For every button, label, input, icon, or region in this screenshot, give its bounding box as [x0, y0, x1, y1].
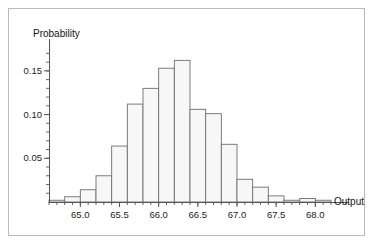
histogram-bar [143, 88, 159, 202]
x-tick-label: 68.0 [302, 210, 328, 220]
histogram-bar [96, 176, 112, 202]
histogram-bar [112, 146, 128, 202]
histogram-bar [221, 144, 237, 202]
x-tick-label: 67.0 [224, 210, 250, 220]
x-tick-label: 65.5 [107, 210, 133, 220]
x-axis-title: Output [334, 197, 364, 207]
histogram-bar [206, 114, 222, 202]
y-tick-label: 0.05 [13, 153, 42, 163]
histogram-bar [315, 200, 331, 202]
histogram-bar [159, 68, 175, 202]
histogram-bar [190, 109, 206, 202]
x-tick-label: 65.0 [67, 210, 93, 220]
histogram-bar [268, 196, 284, 202]
histogram-bar [127, 104, 143, 202]
x-tick-label: 66.5 [185, 210, 211, 220]
histogram-plot [9, 9, 366, 237]
bars-layer [49, 60, 331, 202]
x-tick-label: 67.5 [263, 210, 289, 220]
y-tick-label: 0.10 [13, 110, 42, 120]
figure-frame: 65.065.566.066.567.067.568.00.050.100.15… [8, 8, 365, 236]
histogram-bar [80, 190, 96, 202]
histogram-bar [65, 197, 81, 202]
histogram-bar [237, 179, 253, 202]
histogram-bar [49, 200, 65, 202]
y-tick-label: 0.15 [13, 66, 42, 76]
histogram-bar [174, 60, 190, 202]
histogram-bar [300, 199, 316, 203]
x-tick-label: 66.0 [146, 210, 172, 220]
histogram-bar [284, 200, 300, 202]
y-axis-title: Probability [33, 29, 80, 39]
histogram-bar [253, 187, 269, 202]
